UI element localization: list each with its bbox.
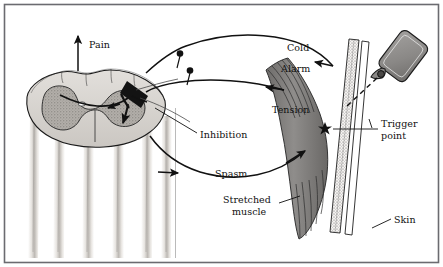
label-pain: Pain: [89, 39, 110, 50]
diagram-canvas: Pain: [0, 0, 443, 267]
label-trigger-point-line1: Trigger: [381, 118, 418, 129]
label-tension: Tension: [272, 104, 309, 115]
figure-root: Pain: [0, 0, 443, 267]
nerve-root: [161, 116, 172, 258]
label-cold: Cold: [287, 42, 309, 53]
label-stretched-muscle-line1: Stretched: [223, 194, 271, 205]
label-alarm: Alarm: [280, 63, 310, 74]
spasm-arrowhead-mid: [158, 172, 178, 173]
label-spasm: Spasm: [215, 168, 247, 179]
nozzle-tip: [378, 71, 385, 78]
label-inhibition: Inhibition: [200, 129, 247, 140]
label-skin: Skin: [394, 214, 416, 225]
label-stretched-muscle-line2: muscle: [232, 206, 267, 217]
label-trigger-point-line2: point: [381, 130, 406, 141]
